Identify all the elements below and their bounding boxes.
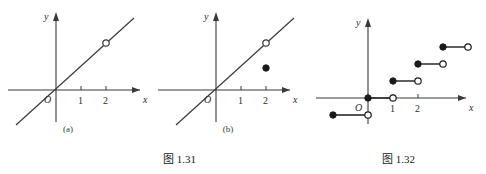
- line-graph: [176, 18, 294, 125]
- panel-b: O 1 2 x y (b): [150, 0, 310, 132]
- open-circle-marker: [440, 61, 446, 67]
- y-axis-label-c: y: [355, 17, 361, 28]
- filled-dot-marker: [365, 95, 371, 101]
- origin-label-c: O: [355, 102, 362, 113]
- x-tick-marks: [241, 86, 266, 90]
- origin-label-b: O: [204, 94, 211, 105]
- filled-dot-marker: [415, 61, 421, 67]
- origin-label-a: O: [44, 94, 51, 105]
- x-axis-label-a: x: [142, 94, 148, 105]
- filled-dot-marker: [263, 65, 269, 71]
- step-segment-2: [415, 61, 446, 67]
- x-axis: [158, 87, 290, 93]
- open-circle-marker: [415, 78, 421, 84]
- open-circle-marker: [390, 95, 396, 101]
- x-tick-label-1-a: 1: [78, 95, 83, 106]
- filled-dot-marker: [440, 44, 446, 50]
- x-tick-label-2-c: 2: [415, 103, 420, 114]
- x-tick-label-1-b: 1: [238, 95, 243, 106]
- x-tick-label-2-b: 2: [263, 95, 268, 106]
- y-axis: [365, 18, 371, 124]
- open-circle-marker: [103, 40, 109, 46]
- filled-dot-marker: [330, 112, 336, 118]
- step-segment-0: [365, 95, 396, 101]
- figure-caption-right: 图 1.32: [382, 150, 415, 166]
- open-circle-marker: [465, 44, 471, 50]
- open-circle-marker: [365, 112, 371, 118]
- panel-c-plot: O 1 2 x y: [310, 0, 486, 132]
- step-segment-neg1: [330, 112, 371, 118]
- x-tick-marks: [81, 86, 106, 90]
- figure-container: O 1 2 x y (a): [0, 0, 486, 174]
- y-axis-label-b: y: [203, 11, 209, 22]
- x-axis: [8, 87, 140, 93]
- panel-a: O 1 2 x y (a): [0, 0, 160, 132]
- line-graph: [16, 18, 134, 125]
- figure-caption-left: 图 1.31: [163, 150, 196, 166]
- panel-b-plot: O 1 2 x y: [150, 0, 310, 132]
- x-tick-label-2-a: 2: [103, 95, 108, 106]
- y-axis: [213, 12, 219, 122]
- y-axis: [53, 12, 59, 122]
- x-axis-label-b: x: [292, 94, 298, 105]
- open-circle-marker: [263, 40, 269, 46]
- y-axis-label-a: y: [43, 11, 49, 22]
- x-tick-label-1-c: 1: [390, 103, 395, 114]
- filled-dot-marker: [390, 78, 396, 84]
- step-segment-1: [390, 78, 421, 84]
- panel-a-sublabel: (a): [48, 124, 88, 134]
- panel-c: O 1 2 x y: [310, 0, 486, 132]
- panel-a-plot: O 1 2 x y: [0, 0, 160, 132]
- x-axis-label-c: x: [468, 102, 474, 113]
- step-segment-3: [440, 44, 471, 50]
- panel-b-sublabel: (b): [208, 124, 248, 134]
